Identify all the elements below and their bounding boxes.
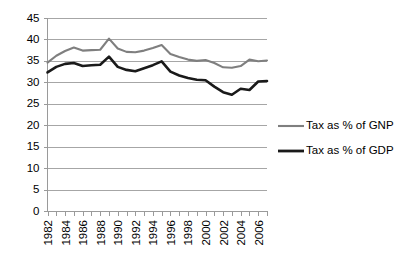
legend-label-1: Tax as % of GNP [306,119,394,131]
x-tick-label: 1982 [42,220,54,246]
x-tick-label: 2002 [218,220,230,246]
chart-container: 454035302520151050 198219841986198819901… [0,0,405,277]
x-tick-label: 2000 [200,220,212,246]
series-line-2 [48,57,268,95]
y-tick-label: 40 [27,33,40,45]
x-tick-label: 1986 [77,220,89,246]
y-tick-label: 25 [27,97,40,109]
x-tick-label: 1994 [147,219,159,245]
y-tick-label: 20 [27,119,40,131]
x-tick-label: 1990 [112,220,124,246]
data-series [48,39,268,95]
y-tick-label: 0 [33,205,39,217]
y-tick-label: 35 [27,54,40,66]
y-tick-label: 30 [27,76,40,88]
x-tick-label: 1984 [60,219,72,245]
legend-label-2: Tax as % of GDP [306,144,394,156]
x-tick-label: 1988 [95,220,107,246]
x-tick-label: 2006 [253,220,265,246]
y-tick-label: 45 [27,12,40,24]
x-tick-label: 2004 [235,219,247,245]
x-tick-label: 1992 [130,220,142,246]
y-tick-label: 5 [33,183,39,195]
y-axis-tick-labels: 454035302520151050 [27,12,40,217]
x-axis-tick-labels: 1982198419861988199019921994199619982000… [42,219,265,245]
y-tick-label: 10 [27,162,40,174]
y-tick-label: 15 [27,140,40,152]
chart-legend: Tax as % of GNPTax as % of GDP [278,119,394,156]
x-tick-label: 1996 [165,220,177,246]
x-tick-label: 1998 [182,220,194,246]
line-chart: 454035302520151050 198219841986198819901… [0,0,405,277]
